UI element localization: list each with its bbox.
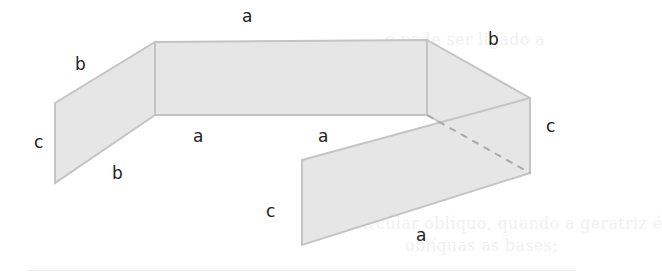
center-panel: [155, 40, 427, 115]
label-front-left-c: c: [266, 203, 275, 220]
label-left-top-b: b: [75, 56, 86, 73]
label-mid-a: a: [318, 128, 328, 145]
label-center-bottom-a: a: [193, 128, 203, 145]
label-right-c: c: [546, 118, 555, 135]
label-right-top-b: b: [488, 31, 499, 48]
left-panel: [55, 42, 155, 183]
label-left-bottom-b: b: [112, 165, 123, 182]
label-top-a: a: [242, 8, 252, 25]
label-front-bottom-a: a: [416, 227, 426, 244]
front-panel: [302, 98, 530, 245]
label-left-c: c: [34, 134, 43, 151]
